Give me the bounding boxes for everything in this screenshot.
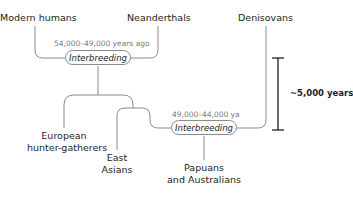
interbreeding-pill-1: Interbreeding bbox=[65, 50, 131, 65]
scale-bar-label: ~5,000 years bbox=[290, 88, 353, 98]
label-neanderthals: Neanderthals bbox=[127, 12, 191, 24]
label-east-asians-line1: East bbox=[97, 152, 137, 164]
date-event-1: 54,000–49,000 years ago bbox=[54, 39, 150, 48]
label-european-line1: European bbox=[27, 130, 101, 142]
label-east-asians-line2: Asians bbox=[97, 164, 137, 176]
label-papuans-line2: and Australians bbox=[164, 174, 244, 186]
date-event-2: 49,000–44,000 ya bbox=[172, 110, 240, 119]
label-papuans-line1: Papuans bbox=[164, 162, 244, 174]
label-modern-humans: Modern humans bbox=[0, 12, 77, 24]
label-european-hunter-gatherers: European hunter-gatherers bbox=[27, 130, 101, 154]
label-denisovans: Denisovans bbox=[238, 12, 293, 24]
label-papuans-australians: Papuans and Australians bbox=[164, 162, 244, 186]
label-european-line2: hunter-gatherers bbox=[27, 142, 101, 154]
label-east-asians: East Asians bbox=[97, 152, 137, 176]
interbreeding-pill-2: Interbreeding bbox=[171, 120, 237, 135]
